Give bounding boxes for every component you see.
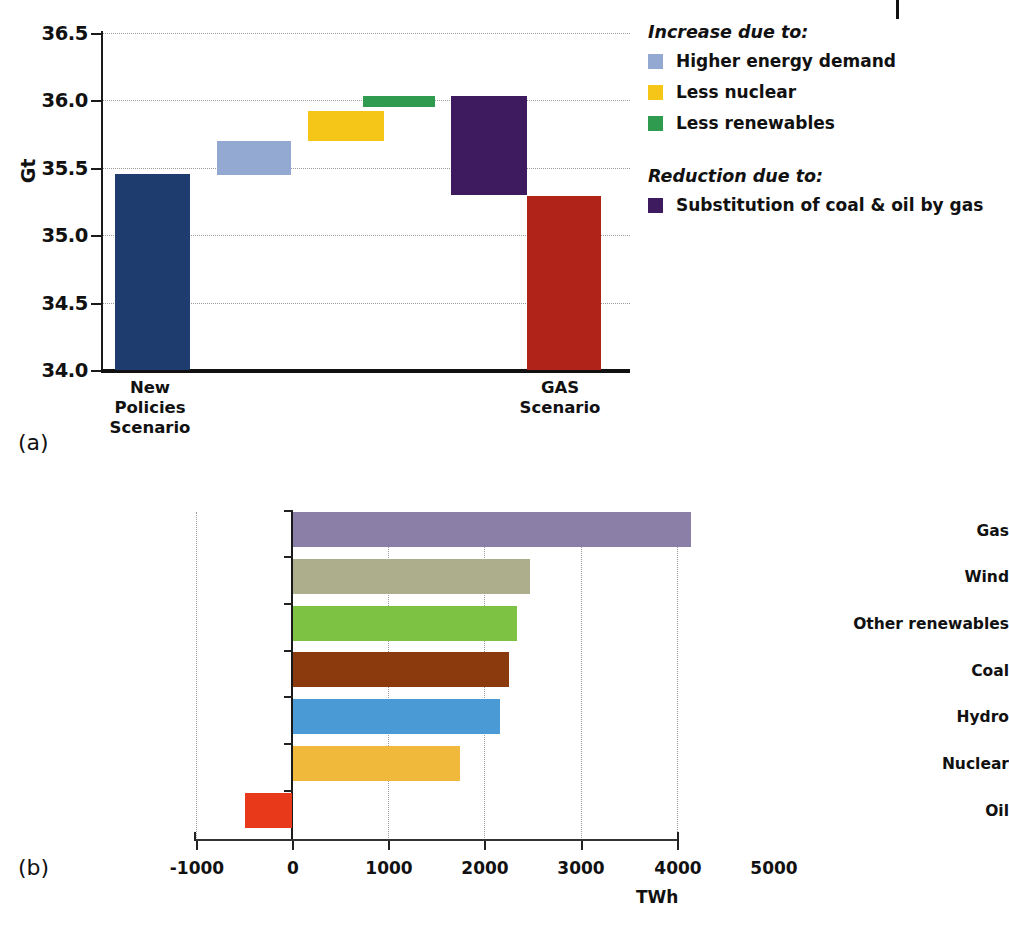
panel-label-a: (a) <box>18 430 49 455</box>
bar-wind <box>293 559 530 594</box>
bar-nuclear <box>293 746 460 781</box>
y-tick-mark <box>284 696 293 698</box>
bar-less-renewables <box>363 96 435 107</box>
bar-higher-energy-demand <box>217 141 291 175</box>
legend-swatch-icon <box>648 85 663 100</box>
x-tick-mark <box>484 841 486 850</box>
legend-item-substitution-coal-oil-by-gas: Substitution of coal & oil by gas <box>648 195 1003 215</box>
gridline <box>677 512 678 838</box>
legend-swatch-icon <box>648 198 663 213</box>
x-tick-mark <box>677 841 679 850</box>
x-axis-line-b <box>194 839 679 841</box>
x-cat-line: New <box>95 378 205 398</box>
corner-tick-mark <box>896 0 899 19</box>
y-tick-label-34-5: 34.5 <box>16 292 88 315</box>
gridline <box>581 512 582 838</box>
bar-new-policies-scenario <box>115 174 190 370</box>
bar-hydro <box>293 699 500 734</box>
legend-item-less-nuclear: Less nuclear <box>648 82 1003 102</box>
bar-substitution-coal-oil-by-gas <box>451 96 527 195</box>
legend-item-less-renewables: Less renewables <box>648 113 1003 133</box>
y-category-hydro: Hydro <box>739 708 1009 726</box>
legend-header-increase: Increase due to: <box>648 22 1003 42</box>
x-tick-mark <box>388 841 390 850</box>
x-cat-line: GAS <box>505 378 615 398</box>
x-tick-label-4000: 4000 <box>633 858 723 878</box>
x-cat-line: Policies <box>95 398 205 418</box>
legend-item-higher-energy-demand: Higher energy demand <box>648 51 1003 71</box>
bar-less-nuclear <box>308 111 384 141</box>
y-category-wind: Wind <box>739 568 1009 586</box>
x-axis-right-cap <box>677 832 679 841</box>
plot-area-a <box>103 33 630 370</box>
y-tick-mark <box>284 603 293 605</box>
x-tick-label-0: 0 <box>248 858 338 878</box>
y-tick-mark <box>284 556 293 558</box>
x-tick-label-1000: 1000 <box>344 858 434 878</box>
x-category-gas-scenario: GAS Scenario <box>505 378 615 418</box>
legend-label: Higher energy demand <box>676 51 896 71</box>
panel-b-horizontal-bar-chart: Gas Wind Other renewables Coal Hydro Nuc… <box>0 480 1009 936</box>
bar-other-renewables <box>293 606 517 641</box>
legend: Increase due to: Higher energy demand Le… <box>648 22 1003 226</box>
bar-oil <box>245 793 292 828</box>
gridline <box>196 512 197 838</box>
x-tick-label-minus-1000: -1000 <box>152 858 242 878</box>
legend-header-reduction: Reduction due to: <box>648 166 1003 186</box>
gridline <box>103 33 630 34</box>
bar-gas <box>293 512 691 547</box>
y-tick-mark <box>284 650 293 652</box>
y-tick-label-35-0: 35.0 <box>16 224 88 247</box>
x-axis-left-cap <box>194 832 196 841</box>
y-tick-label-34-0: 34.0 <box>16 359 88 382</box>
y-category-coal: Coal <box>739 662 1009 680</box>
legend-swatch-icon <box>648 54 663 69</box>
y-tick-label-36-0: 36.0 <box>16 89 88 112</box>
y-category-other-renewables: Other renewables <box>739 615 1009 633</box>
bar-coal <box>293 652 509 687</box>
legend-swatch-icon <box>648 116 663 131</box>
x-tick-mark <box>581 841 583 850</box>
x-tick-mark <box>292 841 294 850</box>
y-tick-label-36-5: 36.5 <box>16 22 88 45</box>
y-category-gas: Gas <box>739 522 1009 540</box>
x-tick-label-5000: 5000 <box>729 858 819 878</box>
x-axis-unit-label: TWh <box>636 887 678 907</box>
legend-label: Substitution of coal & oil by gas <box>676 195 983 215</box>
legend-label: Less nuclear <box>676 82 796 102</box>
legend-label: Less renewables <box>676 113 835 133</box>
y-category-nuclear: Nuclear <box>739 755 1009 773</box>
x-cat-line: Scenario <box>95 418 205 438</box>
x-tick-label-3000: 3000 <box>536 858 626 878</box>
y-tick-mark <box>284 743 293 745</box>
y-tick-label-35-5: 35.5 <box>16 157 88 180</box>
panel-a-waterfall-chart: Gt 36.5 36.0 35.5 35.0 34.5 34.0 New Pol… <box>0 0 640 480</box>
y-category-oil: Oil <box>739 802 1009 820</box>
gridline <box>103 168 630 169</box>
x-category-new-policies-scenario: New Policies Scenario <box>95 378 205 438</box>
y-tick-mark <box>284 790 293 792</box>
bar-gas-scenario <box>527 196 601 370</box>
x-tick-label-2000: 2000 <box>440 858 530 878</box>
panel-label-b: (b) <box>18 855 49 880</box>
legend-spacer <box>648 144 1003 166</box>
y-tick-mark <box>284 510 293 512</box>
x-cat-line: Scenario <box>505 398 615 418</box>
x-tick-mark <box>196 841 198 850</box>
